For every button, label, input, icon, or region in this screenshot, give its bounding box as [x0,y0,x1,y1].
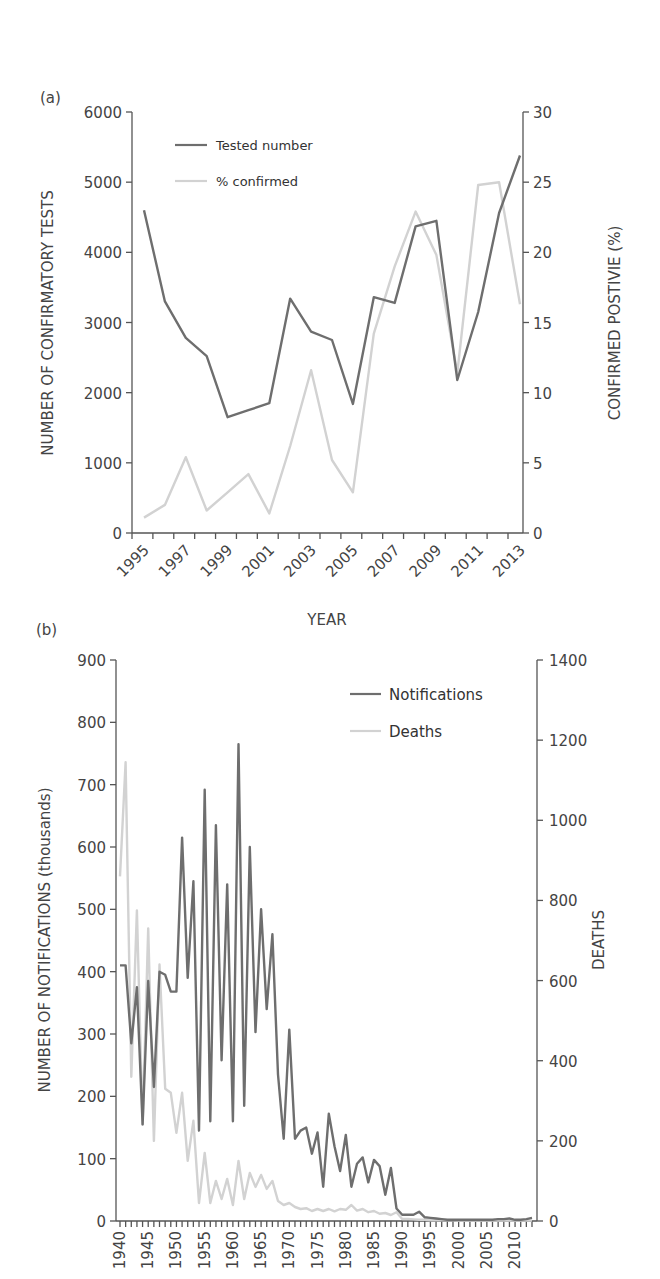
panel-b: (b) 010020030040050060070080090002004006… [36,621,608,1269]
x-tick-label: 2011 [447,541,487,581]
series-notifications [120,744,532,1220]
panel-b-axes: 0100200300400500600700800900020040060080… [77,652,587,1269]
x-tick-label: 1975 [309,1231,327,1269]
x-tick-label: 1999 [197,541,237,581]
x-tick-label: 1945 [139,1231,157,1269]
x-tick-label: 2005 [322,541,362,581]
y-tick-label: 0 [96,1213,106,1231]
y2-tick-label: 0 [533,525,543,543]
y-tick-label: 2000 [84,385,122,403]
y2-tick-label: 800 [549,892,578,910]
y2-tick-label: 20 [533,244,552,262]
panel-b-plot [120,744,532,1220]
y2-tick-label: 10 [533,385,552,403]
x-tick-label: 2013 [489,541,529,581]
panel-a-label: (a) [40,89,61,107]
x-tick-label: 2009 [406,541,446,581]
y2-tick-label: 25 [533,174,552,192]
y-tick-label: 400 [77,964,106,982]
y2-tick-label: 600 [549,973,578,991]
y2-tick-label: 400 [549,1053,578,1071]
y-tick-label: 900 [77,652,106,670]
y2-tick-label: 30 [533,104,552,122]
panel-a-legend: Tested number % confirmed [175,138,313,189]
y-tick-label: 4000 [84,244,122,262]
x-tick-label: 1995 [421,1231,439,1269]
x-tick-label: 2003 [280,541,320,581]
y2-tick-label: 5 [533,455,543,473]
y-tick-label: 800 [77,714,106,732]
x-tick-label: 1980 [337,1231,355,1269]
y-tick-label: 500 [77,901,106,919]
legend-label-confirmed: % confirmed [216,174,298,189]
legend-label-tested: Tested number [215,138,313,153]
panel-a-x-axis-title: YEAR [306,611,346,629]
y-tick-label: 1000 [84,455,122,473]
figure: (a) 010002000300040005000600005101520253… [0,0,660,1279]
x-tick-label: 2010 [506,1231,524,1269]
panel-a-y2-axis-title: CONFIRMED POSTIVIE (%) [606,226,624,421]
x-tick-label: 1995 [113,541,153,581]
y2-tick-label: 1200 [549,732,587,750]
x-tick-label: 1940 [111,1231,129,1269]
x-tick-label: 1965 [252,1231,270,1269]
y2-tick-label: 15 [533,315,552,333]
series-tested-number [144,156,520,418]
y-tick-label: 3000 [84,315,122,333]
y-tick-label: 5000 [84,174,122,192]
panel-b-legend: Notifications Deaths [350,686,483,741]
x-tick-label: 1985 [365,1231,383,1269]
legend-label-notifications: Notifications [389,686,483,704]
panel-b-y2-axis-title: DEATHS [590,910,608,970]
panel-a-y-axis-title: NUMBER OF CONFIRMATORY TESTS [39,190,57,456]
x-tick-label: 1955 [196,1231,214,1269]
y-tick-label: 700 [77,777,106,795]
x-tick-label: 1997 [155,541,195,581]
x-tick-label: 1960 [224,1231,242,1269]
y-tick-label: 6000 [84,104,122,122]
panel-b-label: (b) [36,621,57,639]
x-tick-label: 1950 [167,1231,185,1269]
panel-a-plot [144,156,520,518]
x-tick-label: 2007 [364,541,404,581]
x-tick-label: 2001 [238,541,278,581]
panel-a-axes: 0100020003000400050006000051015202530199… [84,104,552,581]
x-tick-label: 1990 [393,1231,411,1269]
y2-tick-label: 200 [549,1133,578,1151]
y-tick-label: 600 [77,839,106,857]
y-tick-label: 0 [112,525,122,543]
panel-a: (a) 010002000300040005000600005101520253… [39,89,624,629]
y-tick-label: 100 [77,1151,106,1169]
x-tick-label: 2005 [478,1231,496,1269]
y2-tick-label: 1400 [549,652,587,670]
y-tick-label: 200 [77,1088,106,1106]
panel-b-y-axis-title: NUMBER OF NOTIFICATIONS (thousands) [36,787,54,1092]
y2-tick-label: 1000 [549,812,587,830]
y2-tick-label: 0 [549,1213,559,1231]
y-tick-label: 300 [77,1026,106,1044]
x-tick-label: 2000 [450,1231,468,1269]
x-tick-label: 1970 [280,1231,298,1269]
legend-label-deaths: Deaths [389,723,442,741]
